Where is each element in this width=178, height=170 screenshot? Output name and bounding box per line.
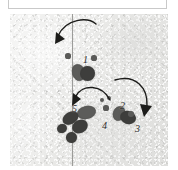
callout-label-3: 3 (135, 124, 140, 134)
midline-axis (72, 14, 73, 166)
dot-1-left (65, 53, 70, 58)
side-note-upper: ····· (19, 60, 26, 63)
dot-3-a (128, 111, 134, 117)
dot-1-right (91, 55, 96, 60)
callout-label-2: 2 (120, 101, 125, 111)
callout-label-1: 1 (83, 55, 88, 65)
figure-root: 1 2 3 4 5 ····· ···· (0, 0, 178, 170)
figure-plate: 1 2 3 4 5 ····· ···· (10, 14, 168, 166)
callout-label-4: 4 (102, 121, 107, 131)
caption-box (8, 0, 167, 9)
dot-4-c (103, 105, 108, 110)
sediment-texture (10, 14, 168, 166)
side-note-lower: ···· (19, 120, 24, 123)
callout-label-5: 5 (72, 104, 77, 114)
